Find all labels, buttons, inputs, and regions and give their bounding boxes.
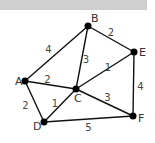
edge-weight-e-f: 4 xyxy=(137,81,143,92)
edge-weight-b-e: 2 xyxy=(108,27,114,38)
graph-canvas: 4232143215 ABCDEF xyxy=(0,0,155,143)
node-label-c: C xyxy=(74,92,82,105)
node-d xyxy=(41,119,48,126)
node-e xyxy=(131,49,138,56)
node-a xyxy=(22,78,29,85)
node-f xyxy=(130,113,137,120)
node-label-f: F xyxy=(138,112,144,125)
node-label-d: D xyxy=(33,120,41,133)
node-label-e: E xyxy=(139,46,146,59)
edge-weight-b-c: 3 xyxy=(83,54,89,65)
node-label-a: A xyxy=(15,75,23,88)
edges-group xyxy=(25,26,134,122)
edge-weight-a-d: 2 xyxy=(22,100,28,111)
edge-c-d xyxy=(44,89,76,122)
edge-weight-a-c: 2 xyxy=(44,74,50,85)
edge-e-f xyxy=(133,52,134,116)
graph-diagram: 4232143215 ABCDEF xyxy=(0,0,155,143)
edge-weight-c-f: 3 xyxy=(104,92,110,103)
edge-weight-c-e: 1 xyxy=(105,62,111,73)
node-label-b: B xyxy=(91,12,99,25)
edge-weight-c-d: 1 xyxy=(52,98,58,109)
edge-weight-a-b: 4 xyxy=(45,44,51,55)
edge-weight-d-f: 5 xyxy=(85,122,91,133)
